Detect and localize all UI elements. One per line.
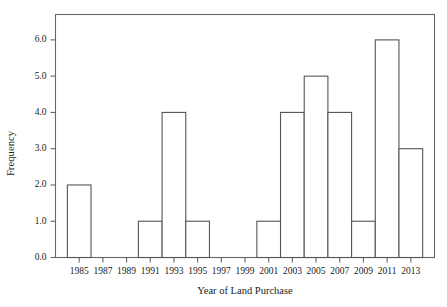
plot-area bbox=[0, 0, 447, 307]
x-axis-ticks bbox=[79, 258, 411, 263]
y-tick-label: 2.0 bbox=[21, 179, 47, 189]
histogram-bars bbox=[67, 40, 422, 258]
histogram-chart: Frequency Year of Land Purchase 0.01.02.… bbox=[0, 0, 447, 307]
histogram-bar bbox=[186, 221, 210, 257]
histogram-bar bbox=[162, 112, 186, 257]
y-tick-label: 0.0 bbox=[21, 252, 47, 262]
histogram-bar bbox=[257, 221, 281, 257]
histogram-bar bbox=[67, 185, 91, 258]
histogram-bar bbox=[304, 76, 328, 257]
y-tick-label: 3.0 bbox=[21, 143, 47, 153]
y-tick-label: 1.0 bbox=[21, 216, 47, 226]
histogram-bar bbox=[352, 221, 376, 257]
y-tick-label: 5.0 bbox=[21, 71, 47, 81]
histogram-bar bbox=[281, 112, 305, 257]
histogram-bar bbox=[138, 221, 162, 257]
histogram-bar bbox=[399, 149, 423, 258]
y-tick-label: 4.0 bbox=[21, 107, 47, 117]
x-tick-label: 2013 bbox=[394, 266, 428, 276]
y-tick-label: 6.0 bbox=[21, 34, 47, 44]
histogram-bar bbox=[328, 112, 352, 257]
histogram-bar bbox=[375, 40, 399, 258]
y-axis-ticks bbox=[51, 40, 56, 258]
